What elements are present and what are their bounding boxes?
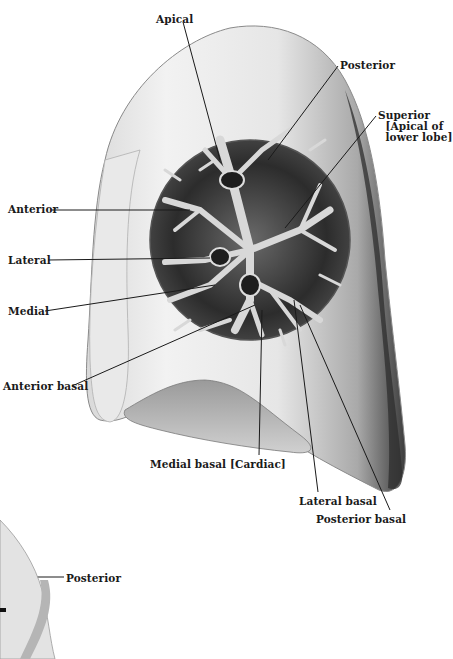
label-posterior-basal: Posterior basal [316,514,406,525]
partial-lung-fragment [0,520,55,659]
label-posterior-top: Posterior [340,60,395,71]
label-superior: Superior [Apical of lower lobe] [378,110,453,143]
label-anterior: Anterior [8,204,58,215]
lower-bronchus-lumen [240,274,260,296]
label-posterior-bottom: Posterior [66,573,121,584]
label-lateral: Lateral [8,255,51,266]
label-medial-basal: Medial basal [Cardiac] [150,459,286,470]
label-medial: Medial [8,306,49,317]
label-apical: Apical [156,14,193,25]
upper-bronchus-lumen [220,171,244,189]
label-anterior-basal: Anterior basal [3,381,88,392]
label-lateral-basal: Lateral basal [299,496,377,507]
middle-bronchus-lumen [210,248,230,266]
